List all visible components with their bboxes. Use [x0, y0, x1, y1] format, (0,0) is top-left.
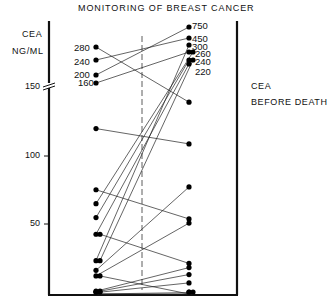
data-point: [93, 57, 98, 62]
data-point: [93, 126, 98, 131]
data-point: [97, 258, 102, 263]
data-point: [190, 289, 195, 294]
pair-line: [100, 60, 193, 261]
data-point: [97, 289, 102, 294]
pair-line: [96, 223, 189, 276]
pair-line: [100, 234, 189, 263]
y-axis-label-line1: CEA: [22, 29, 42, 39]
data-point: [186, 100, 191, 105]
pair-line: [100, 275, 189, 292]
data-point: [186, 42, 191, 47]
tick-label-100: 100: [10, 150, 40, 160]
legend-line1: CEA: [251, 81, 271, 91]
pair-line: [96, 47, 189, 102]
chart-canvas: [0, 0, 329, 304]
tick-label-50: 50: [10, 218, 40, 228]
data-point: [186, 280, 191, 285]
right-annotation-750: 750: [192, 20, 208, 31]
data-point: [93, 268, 98, 273]
data-point: [97, 232, 102, 237]
data-point: [93, 80, 98, 85]
tick-label-150: 150: [10, 81, 40, 91]
data-point: [186, 272, 191, 277]
data-point: [186, 35, 191, 40]
chart-title: MONITORING OF BREAST CANCER: [78, 3, 254, 13]
right-annotation-220: 220: [195, 66, 211, 77]
data-point: [186, 265, 191, 270]
left-annotation-240: 240: [74, 56, 90, 67]
data-point: [93, 72, 98, 77]
data-point: [186, 221, 191, 226]
data-point: [93, 44, 98, 49]
data-point: [97, 273, 102, 278]
pair-line: [96, 52, 193, 204]
data-point: [186, 141, 191, 146]
legend-line2: BEFORE DEATH: [251, 97, 328, 107]
data-point: [93, 215, 98, 220]
data-point: [93, 201, 98, 206]
data-point: [93, 187, 98, 192]
data-point: [186, 24, 191, 29]
pair-line: [96, 60, 189, 218]
pair-line: [96, 64, 189, 234]
data-point: [186, 61, 191, 66]
data-point: [186, 184, 191, 189]
left-annotation-160: 160: [78, 77, 94, 88]
pair-lines: [96, 27, 193, 294]
left-annotation-280: 280: [74, 42, 90, 53]
y-axis-label-line2: NG/ML: [12, 46, 44, 56]
